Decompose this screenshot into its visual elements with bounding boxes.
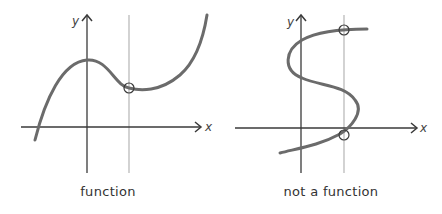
x-axis-label: x	[419, 121, 428, 135]
function-caption: function	[28, 184, 188, 199]
not-function-graph: x y	[235, 15, 428, 173]
y-axis-label: y	[286, 15, 295, 29]
y-axis-label: y	[71, 14, 80, 28]
s-curve	[280, 29, 367, 153]
x-axis-label: x	[204, 120, 213, 134]
function-curve	[35, 15, 207, 140]
function-graph: x y	[21, 14, 213, 173]
vertical-line-test-diagram: x y x y	[0, 0, 442, 214]
not-function-caption: not a function	[251, 184, 411, 199]
